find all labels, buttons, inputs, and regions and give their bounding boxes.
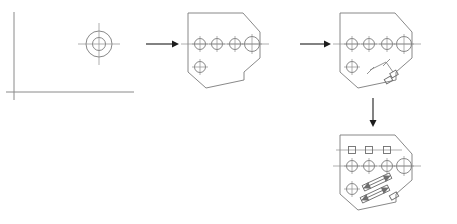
hole-5-lower-left (344, 59, 360, 75)
dimension-tick-start (367, 67, 374, 74)
hole-4-large (394, 156, 414, 176)
cad-workflow-diagram (0, 0, 457, 224)
hole-2 (209, 36, 225, 52)
flow-arrow-head (172, 41, 179, 48)
hole-3 (379, 158, 395, 174)
hole-3 (379, 36, 395, 52)
panel-plate-with-dimension-annotation (333, 13, 421, 88)
hole-2 (361, 158, 377, 174)
flow-arrow-head (324, 41, 331, 48)
hole-1 (344, 158, 360, 174)
hole-2 (361, 36, 377, 52)
hole-1 (344, 36, 360, 52)
flow-arrow-step3-to-step4 (370, 98, 377, 127)
hole-4-large (242, 34, 262, 54)
flow-arrow-head (370, 120, 377, 127)
hole-5-lower-left (192, 59, 208, 75)
hole-4-large (394, 34, 414, 54)
flow-arrow-step2-to-step3 (300, 41, 331, 48)
hole-1 (192, 36, 208, 52)
target-symbol (78, 23, 120, 65)
hole-3 (227, 36, 243, 52)
dimension-leader-line (386, 62, 393, 72)
panel-plate-outline-with-holes (181, 13, 269, 88)
diagram-canvas (0, 0, 457, 224)
hole-5-lower-left (344, 181, 360, 197)
panel-plate-with-squares-and-section-arrows (333, 135, 421, 210)
slot-feature-1 (389, 192, 398, 200)
panel-coordinate-axes-and-target (6, 12, 134, 100)
flow-arrow-step1-to-step2 (146, 41, 179, 48)
